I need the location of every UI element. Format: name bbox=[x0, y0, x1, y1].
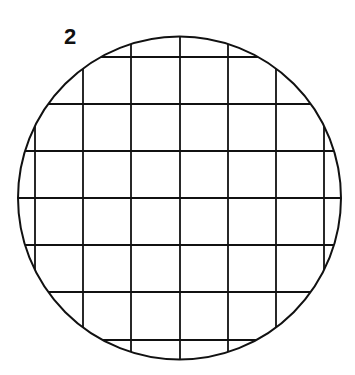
circle-grid-diagram bbox=[0, 0, 355, 375]
